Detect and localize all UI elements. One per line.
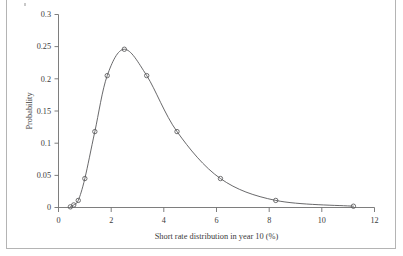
x-axis-title: Short rate distribution in year 10 (%) bbox=[155, 232, 279, 241]
x-tick-label-8: 8 bbox=[267, 216, 271, 225]
y-axis-tick-labels: 0 0.05 0.1 0.15 0.2 0.25 0.3 bbox=[37, 10, 51, 212]
x-tick-label-10: 10 bbox=[318, 216, 326, 225]
x-tick-label-2: 2 bbox=[109, 216, 113, 225]
y-tick-label-0_25: 0.25 bbox=[37, 42, 51, 51]
x-tick-label-4: 4 bbox=[162, 216, 166, 225]
y-axis-ticks bbox=[55, 15, 59, 208]
data-point-markers bbox=[68, 47, 355, 209]
y-tick-label-0_15: 0.15 bbox=[37, 107, 51, 116]
x-axis-tick-labels: 0 2 4 6 8 10 12 bbox=[56, 216, 378, 225]
y-tick-label-0_2: 0.2 bbox=[41, 75, 51, 84]
chart-plot-area: 0 0.05 0.1 0.15 0.2 0.25 0.3 0 bbox=[0, 0, 403, 256]
y-tick-label-0_3: 0.3 bbox=[41, 10, 51, 19]
y-axis-title: Probability bbox=[25, 92, 34, 130]
print-artifact-mark bbox=[24, 3, 26, 6]
figure-root: 0 0.05 0.1 0.15 0.2 0.25 0.3 0 bbox=[0, 0, 403, 256]
y-tick-label-0_05: 0.05 bbox=[37, 171, 51, 180]
x-tick-label-0: 0 bbox=[56, 216, 60, 225]
probability-distribution-chart: 0 0.05 0.1 0.15 0.2 0.25 0.3 0 bbox=[0, 0, 403, 256]
y-tick-label-0: 0 bbox=[47, 203, 51, 212]
x-axis-ticks bbox=[59, 208, 375, 213]
x-tick-label-12: 12 bbox=[370, 216, 378, 225]
x-tick-label-6: 6 bbox=[214, 216, 218, 225]
y-tick-label-0_1: 0.1 bbox=[41, 139, 51, 148]
distribution-curve bbox=[70, 49, 353, 207]
